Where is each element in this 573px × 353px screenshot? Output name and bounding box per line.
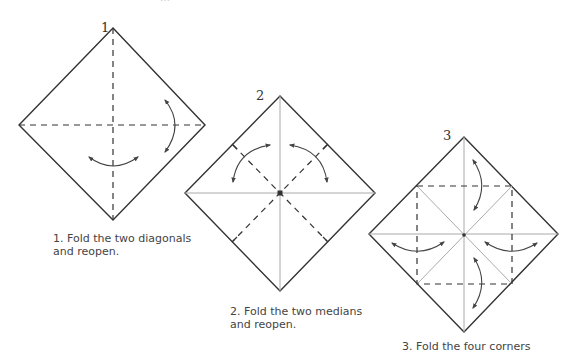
fold-arrow-icon <box>392 242 444 251</box>
step-3-diagram: 3 <box>369 128 558 332</box>
paper-square-outline <box>19 28 205 220</box>
fold-arrow-icon <box>165 100 175 152</box>
center-point-icon <box>278 191 283 196</box>
step-2-number: 2 <box>256 88 264 103</box>
origami-diagram: 1 2 3 <box>0 0 573 353</box>
step-3-number: 3 <box>443 128 451 143</box>
step-1-caption: 1. Fold the two diagonals and reopen. <box>53 232 191 258</box>
step-3-caption: 3. Fold the four corners <box>402 340 530 353</box>
fold-arrow-icon <box>473 258 482 308</box>
step-2-diagram: 2 <box>185 88 375 291</box>
step-2-caption: 2. Fold the two medians and reopen. <box>230 305 362 331</box>
fold-arrow-icon <box>485 242 537 251</box>
fold-arrow-icon <box>473 160 482 210</box>
step-1-diagram: 1 <box>19 20 205 220</box>
center-point-icon <box>462 233 466 237</box>
